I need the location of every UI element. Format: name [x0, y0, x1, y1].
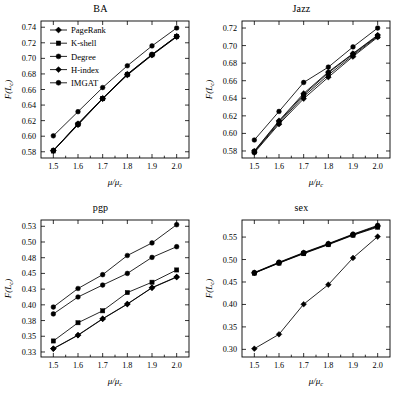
- y-tick-label: 0.58: [223, 147, 237, 156]
- plot-area-ba: 1.51.61.71.81.92.00.580.600.620.640.660.…: [0, 0, 201, 199]
- legend: PageRankK-shellDegreeH-indexIMGAT: [50, 25, 107, 88]
- data-point-marker: [150, 255, 155, 260]
- x-tick-label: 1.7: [299, 361, 309, 370]
- x-tick-label: 2.0: [172, 361, 182, 370]
- x-tick-label: 1.9: [348, 162, 358, 171]
- y-tick-label: 0.45: [223, 278, 237, 287]
- data-point-marker: [76, 295, 81, 300]
- x-tick-label: 2.0: [172, 162, 182, 171]
- y-tick-label: 0.38: [22, 317, 36, 326]
- data-point-marker: [51, 133, 56, 138]
- svg-text:F(Lc): F(Lc): [3, 80, 14, 100]
- y-tick-label: 0.30: [223, 345, 237, 354]
- x-tick-label: 1.5: [249, 162, 259, 171]
- x-tick-label: 1.7: [98, 162, 108, 171]
- data-point-marker: [351, 45, 356, 50]
- y-tick-label: 0.64: [223, 94, 237, 103]
- data-point-marker: [125, 290, 129, 294]
- x-tick-label: 1.7: [299, 162, 309, 171]
- legend-label-pagerank: PageRank: [71, 25, 107, 35]
- y-tick-label: 0.48: [22, 254, 36, 263]
- data-point-marker: [326, 241, 331, 246]
- x-axis-title: μ/μc: [308, 177, 324, 188]
- data-point-marker: [150, 44, 155, 49]
- svg-text:F(Lc): F(Lc): [3, 279, 14, 299]
- x-tick-label: 2.0: [373, 162, 383, 171]
- y-tick-label: 0.74: [22, 23, 36, 32]
- data-point-marker: [56, 27, 62, 33]
- x-tick-label: 1.5: [48, 162, 58, 171]
- data-point-marker: [125, 63, 130, 68]
- data-point-marker: [174, 222, 179, 227]
- legend-label-degree: Degree: [71, 52, 96, 62]
- data-point-marker: [56, 41, 60, 45]
- y-tick-label: 0.55: [223, 233, 237, 242]
- y-tick-label: 0.72: [223, 24, 237, 33]
- y-tick-label: 0.66: [223, 77, 237, 86]
- series-line-degree: [254, 36, 377, 152]
- y-tick-label: 0.68: [22, 70, 36, 79]
- data-point-marker: [56, 67, 62, 73]
- data-point-marker: [125, 253, 130, 258]
- svg-text:F(Lc): F(Lc): [204, 279, 215, 299]
- data-point-marker: [301, 80, 306, 85]
- data-point-marker: [56, 54, 61, 59]
- panel-pgp: pgp 1.51.61.71.81.92.00.330.350.380.400.…: [0, 199, 201, 398]
- data-point-marker: [175, 268, 179, 272]
- y-tick-label: 0.50: [22, 238, 36, 247]
- x-tick-label: 1.6: [274, 361, 284, 370]
- series-line-k-shell: [254, 227, 377, 273]
- x-axis-title: μ/μc: [107, 376, 123, 387]
- x-tick-label: 1.7: [98, 361, 108, 370]
- plot-frame: [41, 220, 189, 357]
- series-line-h-index: [254, 35, 377, 151]
- series-line-pagerank: [254, 237, 377, 349]
- panel-jazz: Jazz 1.51.61.71.81.92.00.580.600.620.640…: [201, 0, 402, 199]
- plot-frame: [41, 21, 189, 158]
- data-point-marker: [76, 321, 80, 325]
- data-point-marker: [301, 250, 306, 255]
- series-line-h-index: [53, 277, 176, 349]
- data-point-marker: [252, 270, 257, 275]
- plot-area-pgp: 1.51.61.71.81.92.00.330.350.380.400.430.…: [0, 199, 201, 398]
- y-tick-label: 0.50: [223, 256, 237, 265]
- data-point-marker: [174, 244, 179, 249]
- plot-area-jazz: 1.51.61.71.81.92.00.580.600.620.640.660.…: [201, 0, 402, 199]
- y-axis-title: F(Lc): [204, 279, 215, 299]
- data-point-marker: [150, 241, 155, 246]
- panel-sex: sex 1.51.61.71.81.92.00.300.350.400.450.…: [201, 199, 402, 398]
- y-tick-label: 0.60: [22, 132, 36, 141]
- data-point-marker: [51, 305, 56, 310]
- x-tick-label: 1.6: [274, 162, 284, 171]
- data-point-marker: [100, 272, 105, 277]
- x-tick-label: 1.9: [147, 162, 157, 171]
- data-point-marker: [100, 283, 105, 288]
- y-tick-label: 0.66: [22, 86, 36, 95]
- data-point-marker: [51, 339, 55, 343]
- plot-area-sex: 1.51.61.71.81.92.00.300.350.400.450.500.…: [201, 199, 402, 398]
- y-tick-label: 0.45: [22, 269, 36, 278]
- series-line-k-shell: [254, 36, 377, 152]
- data-point-marker: [125, 271, 130, 276]
- svg-text:F(Lc): F(Lc): [204, 80, 215, 100]
- data-point-marker: [277, 109, 282, 114]
- y-tick-label: 0.43: [22, 285, 36, 294]
- data-point-marker: [51, 312, 56, 317]
- y-tick-label: 0.70: [223, 42, 237, 51]
- x-tick-label: 1.6: [73, 361, 83, 370]
- data-point-marker: [326, 65, 331, 70]
- y-tick-label: 0.62: [22, 117, 36, 126]
- y-tick-label: 0.68: [223, 59, 237, 68]
- plot-frame: [242, 220, 390, 357]
- series-line-degree: [53, 247, 176, 314]
- y-tick-label: 0.35: [22, 332, 36, 341]
- y-tick-label: 0.58: [22, 148, 36, 157]
- x-tick-label: 1.8: [323, 162, 333, 171]
- x-tick-label: 1.6: [73, 162, 83, 171]
- data-point-marker: [101, 309, 105, 313]
- x-tick-label: 1.9: [147, 361, 157, 370]
- x-tick-label: 1.5: [249, 361, 259, 370]
- data-point-marker: [76, 109, 81, 114]
- y-tick-label: 0.40: [22, 301, 36, 310]
- data-point-marker: [252, 138, 257, 143]
